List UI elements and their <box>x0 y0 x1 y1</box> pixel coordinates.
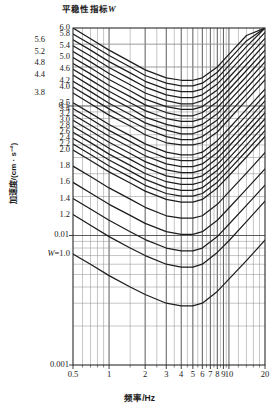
x-tick-label: 0.5 <box>62 369 84 379</box>
curve-label-outer-5-6: 5.6 <box>24 34 45 44</box>
curve-W-1-4 <box>73 185 265 251</box>
curve-label-inner-2-0: 2.0 <box>49 144 70 154</box>
x-tick-label: 1 <box>98 369 120 379</box>
curve-label-inner-1-8: 1.8 <box>49 160 70 170</box>
curve-label-outer-4-8: 4.8 <box>24 57 45 67</box>
curve-label-inner-1-4: 1.4 <box>49 193 70 203</box>
curve-W-2-2 <box>73 131 265 197</box>
curve-label-outer-4-4: 4.4 <box>24 69 45 79</box>
w-symbol: W <box>47 248 54 258</box>
curve-label-inner-1-2: 1.2 <box>49 209 70 219</box>
figure-container: 平稳性指标W 加速度/(cm · s⁻²) 频率/Hz 0.10.010.001… <box>0 0 279 412</box>
curve-W-1-0 <box>73 240 265 306</box>
w-value: =1.0 <box>55 248 70 258</box>
curve-label-inner-5-8: 5.8 <box>49 28 70 38</box>
curve-label-inner-4-0: 4.0 <box>49 81 70 91</box>
x-tick-label: 20 <box>254 369 276 379</box>
curve-W-2-6 <box>73 119 265 185</box>
curve-label-outer-5-2: 5.2 <box>24 46 45 56</box>
curve-W-1-6 <box>73 169 265 235</box>
x-tick-label: 2 <box>134 369 156 379</box>
curve-W-1-2 <box>73 201 265 267</box>
y-tick-label: 0.001 <box>27 359 69 369</box>
y-tick-label: 0.01 <box>27 229 69 239</box>
curve-label-inner-1-6: 1.6 <box>49 176 70 186</box>
curve-W-6-0 <box>73 28 265 80</box>
curve-label-w-1-0: W=1.0 <box>31 248 70 258</box>
curve-label-outer-3-8: 3.8 <box>24 87 45 97</box>
curve-label-inner-5-4: 5.4 <box>49 40 70 50</box>
curve-label-inner-5-0: 5.0 <box>49 51 70 61</box>
x-tick-label: 10 <box>218 369 240 379</box>
curve-W-2-0 <box>73 137 265 203</box>
curve-label-inner-4-6: 4.6 <box>49 63 70 73</box>
